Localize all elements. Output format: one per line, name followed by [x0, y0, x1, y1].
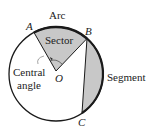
central-angle-label-line1: Central	[13, 67, 45, 78]
point-B-label: B	[85, 26, 92, 37]
central-angle-label-line2: angle	[17, 80, 41, 91]
point-A-label: A	[26, 21, 33, 32]
point-O-label: O	[55, 73, 63, 84]
sector-label: Sector	[45, 35, 73, 46]
arc-label: Arc	[49, 10, 66, 21]
segment-label: Segment	[107, 72, 146, 83]
leader-line	[38, 56, 44, 64]
point-C-label: C	[78, 117, 85, 128]
